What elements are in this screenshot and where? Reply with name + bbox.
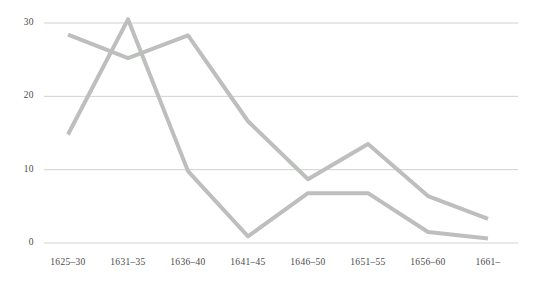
y-tick-label-20: 20 bbox=[4, 91, 34, 101]
x-tick-label-6: 1651–55 bbox=[350, 258, 385, 268]
line-chart: 0102030 1625–301631–351636–401641–451646… bbox=[0, 0, 541, 284]
data-series-group bbox=[68, 19, 488, 238]
y-tick-label-10: 10 bbox=[4, 165, 34, 175]
x-tick-label-7: 1656–60 bbox=[410, 258, 445, 268]
y-tick-label-0: 0 bbox=[4, 238, 34, 248]
x-tick-label-1: 1625–30 bbox=[50, 258, 85, 268]
chart-plot-area bbox=[0, 0, 541, 284]
y-tick-label-30: 30 bbox=[4, 18, 34, 28]
x-tick-label-4: 1641–45 bbox=[230, 258, 265, 268]
x-tick-label-8: 1661– bbox=[475, 258, 500, 268]
x-tick-label-3: 1636–40 bbox=[170, 258, 205, 268]
x-tick-label-5: 1646–50 bbox=[290, 258, 325, 268]
gridlines bbox=[44, 23, 518, 243]
x-tick-label-2: 1631–35 bbox=[110, 258, 145, 268]
data-line-1 bbox=[68, 35, 488, 219]
data-line-2 bbox=[68, 19, 488, 238]
